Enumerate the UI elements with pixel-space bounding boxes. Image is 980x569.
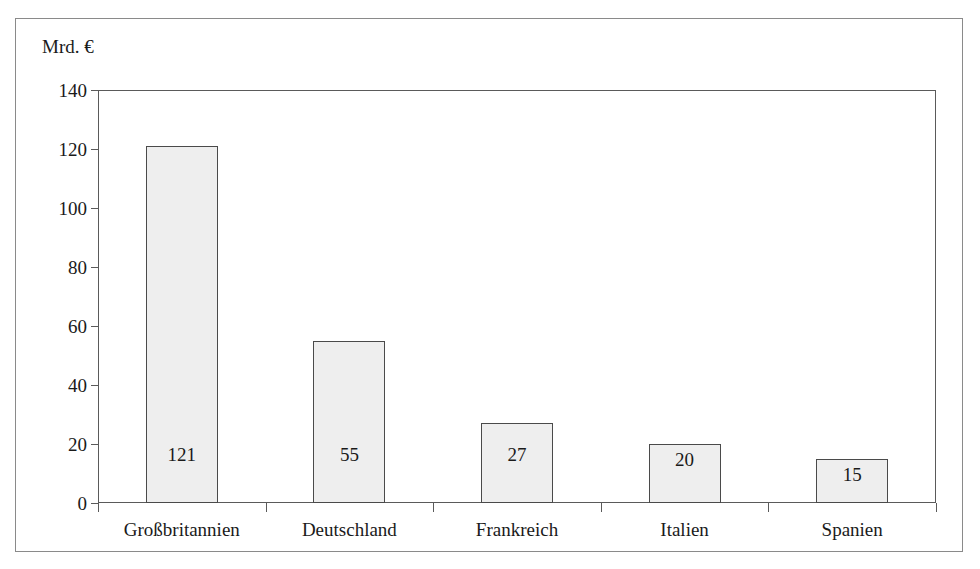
x-category-label: Frankreich — [433, 519, 601, 541]
y-tick-label: 140 — [59, 81, 88, 100]
y-tick-label: 120 — [59, 140, 88, 159]
x-tick-mark — [601, 503, 602, 512]
bar[interactable]: 20 — [649, 444, 721, 503]
y-tick-mark — [91, 90, 98, 91]
y-tick-mark — [91, 326, 98, 327]
y-tick-mark — [91, 208, 98, 209]
y-tick-label: 20 — [68, 435, 87, 454]
plot-top-border — [98, 90, 936, 91]
x-tick-mark — [433, 503, 434, 512]
x-category-label: Großbritannien — [98, 519, 266, 541]
x-tick-mark — [936, 503, 937, 512]
y-axis-line — [98, 90, 99, 503]
x-category-label: Italien — [601, 519, 769, 541]
bar-value-label: 27 — [482, 445, 552, 464]
bar-value-label: 15 — [817, 465, 887, 484]
bar-value-label: 55 — [314, 445, 384, 464]
bar-value-label: 20 — [650, 450, 720, 469]
x-tick-mark — [266, 503, 267, 512]
plot-area: 020406080100120140 12155272015 Großbrita… — [98, 90, 936, 503]
bar[interactable]: 15 — [816, 459, 888, 503]
bar[interactable]: 27 — [481, 423, 553, 503]
y-tick-mark — [91, 385, 98, 386]
y-tick-label: 0 — [78, 494, 88, 513]
y-tick-mark — [91, 267, 98, 268]
bar[interactable]: 55 — [313, 341, 385, 503]
y-tick-label: 80 — [68, 258, 87, 277]
x-category-label: Deutschland — [266, 519, 434, 541]
x-category-label: Spanien — [768, 519, 936, 541]
y-tick-label: 100 — [59, 199, 88, 218]
y-tick-mark — [91, 503, 98, 504]
plot-right-border — [935, 90, 936, 503]
y-tick-mark — [91, 149, 98, 150]
chart-figure-frame: Mrd. € 020406080100120140 12155272015 Gr… — [15, 18, 963, 552]
bar-value-label: 121 — [147, 445, 217, 464]
bar-chart: Mrd. € 020406080100120140 12155272015 Gr… — [16, 19, 964, 553]
y-axis-unit-label: Mrd. € — [42, 36, 94, 58]
x-tick-mark — [768, 503, 769, 512]
y-tick-label: 60 — [68, 317, 87, 336]
bar[interactable]: 121 — [146, 146, 218, 503]
x-tick-mark — [98, 503, 99, 512]
y-tick-label: 40 — [68, 376, 87, 395]
y-tick-mark — [91, 444, 98, 445]
